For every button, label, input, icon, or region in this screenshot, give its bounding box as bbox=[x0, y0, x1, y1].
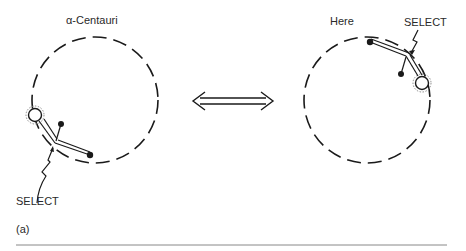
left-selector-ring-icon bbox=[26, 106, 44, 124]
right-node-dot bbox=[367, 39, 373, 45]
double-headed-arrow-icon bbox=[193, 92, 273, 110]
right-node-dot bbox=[398, 71, 404, 77]
right-select-pointer-icon bbox=[412, 30, 418, 51]
left-select-label: SELECT bbox=[16, 195, 59, 207]
left-pointer-stick bbox=[39, 119, 90, 155]
left-dashed-circle bbox=[32, 37, 158, 163]
left-node-dot bbox=[58, 121, 64, 127]
right-title: Here bbox=[330, 15, 354, 27]
diagram-canvas bbox=[0, 0, 466, 251]
right-select-label: SELECT bbox=[404, 16, 447, 28]
left-node-dot bbox=[87, 152, 93, 158]
right-selector-ring-icon bbox=[413, 74, 431, 92]
left-title: α-Centauri bbox=[66, 14, 118, 26]
panel-label: (a) bbox=[16, 223, 29, 235]
